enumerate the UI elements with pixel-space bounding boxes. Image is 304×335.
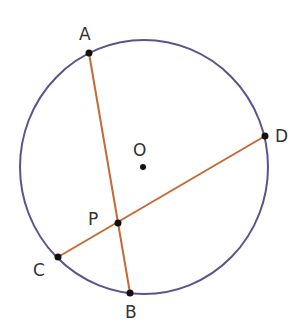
label-c: C xyxy=(33,260,45,280)
point-a xyxy=(86,50,93,57)
point-b xyxy=(127,290,134,297)
point-o-center xyxy=(140,164,146,170)
label-b: B xyxy=(125,302,137,322)
chord-cd xyxy=(58,136,265,257)
point-d xyxy=(262,133,269,140)
label-d: D xyxy=(275,126,288,146)
label-p: P xyxy=(88,209,98,229)
point-c xyxy=(55,254,62,261)
label-a: A xyxy=(79,24,91,44)
chord-ab xyxy=(89,53,130,293)
circle-chords-diagram: A B C D P O xyxy=(0,0,304,335)
point-p xyxy=(115,220,122,227)
label-o: O xyxy=(133,140,146,160)
